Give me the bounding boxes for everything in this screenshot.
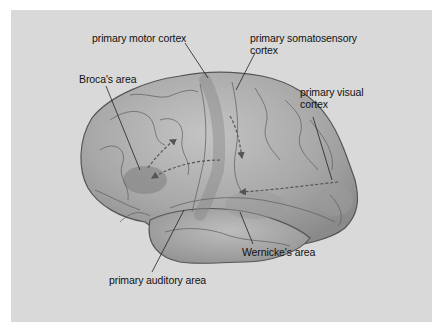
label-wernickes-area: Wernicke's area xyxy=(242,246,315,258)
label-primary-visual-line2: cortex xyxy=(300,98,363,110)
brain-illustration xyxy=(0,0,443,334)
label-brocas-area: Broca's area xyxy=(79,73,136,85)
label-primary-somatosensory-line2: cortex xyxy=(250,44,357,56)
label-primary-auditory-area: primary auditory area xyxy=(109,274,206,286)
label-primary-motor-cortex: primary motor cortex xyxy=(92,32,186,44)
label-primary-somatosensory-line1: primary somatosensory xyxy=(250,32,357,44)
label-primary-visual-line1: primary visual xyxy=(300,86,363,98)
label-primary-visual-cortex: primary visual cortex xyxy=(300,86,363,110)
label-primary-somatosensory-cortex: primary somatosensory cortex xyxy=(250,32,357,56)
